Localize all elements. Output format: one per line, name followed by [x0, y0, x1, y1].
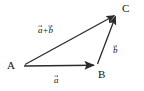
vector-label-b: b	[113, 44, 118, 55]
vector-label-a-letter: a	[54, 76, 59, 85]
point-label-a: A	[7, 60, 15, 71]
sum-second-letter: b	[49, 26, 54, 35]
vector-label-a: a	[54, 74, 59, 85]
vector-a-plus-b-line	[25, 16, 115, 65]
sum-first-letter: a	[38, 26, 43, 35]
point-label-c: C	[122, 3, 129, 14]
vector-label-b-letter: b	[113, 46, 118, 55]
point-label-b: B	[98, 69, 105, 80]
vector-addition-diagram: A B C a b a +	[0, 0, 144, 91]
vector-label-a-plus-b: a + b	[38, 24, 53, 35]
vector-a-line	[24, 65, 94, 66]
